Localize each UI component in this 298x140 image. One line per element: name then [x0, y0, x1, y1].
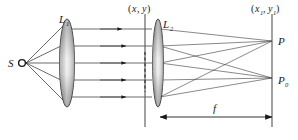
ray-l2-to-p-4	[160, 41, 272, 97]
image-plane-label: ( x 1 , y 1 )	[251, 3, 279, 16]
object-plane-comma: ,	[137, 3, 140, 14]
ray-l2-to-p0-3	[160, 78, 272, 80]
lens1-label-subscript: 1	[66, 20, 69, 27]
point-p-label: P	[277, 35, 285, 47]
source-point-marker	[19, 60, 26, 67]
image-plane-comma: ,	[263, 3, 266, 14]
focal-length-label: f	[213, 102, 218, 114]
ray-l2-to-p0-1	[160, 46, 272, 78]
point-p0-label: P 0	[277, 74, 289, 88]
ray-l2-to-p-3	[160, 41, 272, 63]
ray-l2-to-p0-2	[160, 63, 272, 78]
lens-l2-shading	[153, 19, 164, 107]
lens2-label-subscript: 2	[170, 25, 174, 32]
lens-l1-shading	[60, 19, 75, 107]
source-label: S	[8, 57, 14, 69]
lens1-label-letter: L	[58, 13, 65, 25]
point-p0-label-letter: P	[277, 74, 285, 86]
point-p0-label-subscript: 0	[285, 81, 289, 88]
image-plane-paren-close: )	[276, 3, 279, 15]
lens2-label-letter: L	[162, 18, 169, 30]
lens1-label: L 1	[58, 13, 69, 27]
ray-l2-to-p-2	[160, 41, 272, 46]
ray-diagram-canvas: S L 1 L 2 ( x , y ) ( x 1 , y 1 )	[0, 0, 298, 140]
optics-figure: S L 1 L 2 ( x , y ) ( x 1 , y 1 )	[0, 0, 298, 140]
object-plane-paren-close: )	[147, 3, 150, 15]
converging-ray-bundle	[160, 29, 272, 97]
ray-l2-to-p0-4	[160, 78, 272, 97]
ray-l2-to-p-1	[160, 29, 272, 41]
lens2-label: L 2	[162, 18, 174, 32]
object-plane-label: ( x , y )	[128, 3, 150, 15]
collimated-ray-bundle	[68, 29, 152, 97]
